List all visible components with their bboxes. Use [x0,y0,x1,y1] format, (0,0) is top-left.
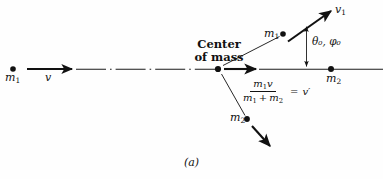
cm-velocity-result: v′ [302,86,310,97]
cm-velocity-equation: m1v m1+m2 = v′ [240,79,310,105]
m1-incoming-symbol: m [5,71,15,84]
angle-label: θ₀, φ₀ [312,36,341,48]
numerator-mass-symbol: m [253,78,262,89]
figure-caption: (a) [184,157,199,169]
velocity-incoming-label: v [45,72,51,84]
m1-incoming-label: m1 [5,72,20,85]
physics-collision-figure: m1 v Center of mass m1 v1 θ₀, φ₀ m2 m2 m… [0,0,383,179]
center-of-mass-line1: Center [183,38,255,51]
denominator-second-symbol: m [269,92,278,103]
denominator-first-subscript: 1 [252,97,256,105]
m2-right-subscript: 2 [336,77,341,86]
center-of-mass-dot [215,66,221,72]
numerator-velocity-symbol: v [267,78,273,89]
m1-scattered-dot [280,31,286,37]
m1-scattered-subscript: 1 [274,32,279,41]
m2-lower-label: m2 [230,112,245,125]
figure-vector-layer [0,0,383,179]
v1-label: v1 [335,4,346,17]
m1-incoming-subscript: 1 [15,76,20,85]
m2-right-label: m2 [326,73,341,86]
m2-right-symbol: m [326,72,336,85]
cm-velocity-fraction: m1v m1+m2 [240,79,286,105]
cm-velocity-equals-sign: = [290,86,298,97]
m2-lower-subscript: 2 [240,116,245,125]
denominator-second-subscript: 2 [279,97,283,105]
v1-subscript: 1 [341,8,346,17]
m1-scattered-label: m1 [264,28,279,41]
cm-velocity-numerator: m1v [250,79,275,92]
denominator-plus-sign: + [259,92,267,103]
m1-scattered-symbol: m [264,27,274,40]
v2-recoil-arrow [252,126,270,146]
center-of-mass-line2: of mass [183,51,255,64]
cm-velocity-denominator: m1+m2 [240,92,286,104]
center-of-mass-label: Center of mass [183,38,255,64]
m2-lower-symbol: m [230,111,240,124]
